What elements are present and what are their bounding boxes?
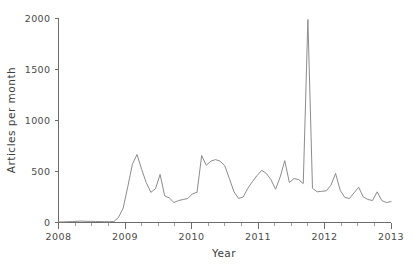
- chart-figure: 0500100015002000 20082009201020112012201…: [0, 0, 413, 270]
- y-tick-label: 0: [44, 217, 50, 228]
- x-tick-label: 2013: [378, 231, 404, 242]
- x-tick-label: 2009: [112, 231, 138, 242]
- chart-background: [0, 0, 413, 270]
- y-axis-title: Articles per month: [5, 67, 17, 173]
- x-axis-title: Year: [211, 247, 236, 259]
- x-tick-label: 2012: [312, 231, 338, 242]
- x-tick-label: 2008: [46, 231, 72, 242]
- x-tick-label: 2011: [245, 231, 271, 242]
- y-tick-label: 500: [31, 166, 50, 177]
- articles-per-month-line-chart: 0500100015002000 20082009201020112012201…: [0, 0, 413, 270]
- y-tick-label: 1500: [25, 64, 51, 75]
- y-tick-label: 2000: [25, 13, 51, 24]
- x-tick-label: 2010: [179, 231, 205, 242]
- y-tick-label: 1000: [25, 115, 51, 126]
